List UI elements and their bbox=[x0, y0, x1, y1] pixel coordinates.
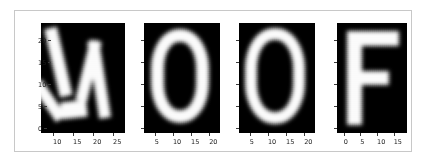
subplot-panel-f[interactable]: 051015 bbox=[337, 23, 407, 133]
tick-mark bbox=[236, 40, 239, 41]
subplot-panel-w[interactable]: 05101520 10152025 bbox=[41, 23, 125, 133]
tick-mark bbox=[191, 133, 192, 136]
letter-glyph-o-2 bbox=[239, 23, 315, 133]
tick-mark bbox=[44, 128, 47, 129]
subplot-panel-o-2[interactable]: 5101520 bbox=[239, 23, 315, 133]
tick-label: 20 bbox=[38, 37, 48, 45]
image-axes-w bbox=[41, 23, 125, 133]
tick-mark bbox=[93, 133, 94, 136]
tick-mark bbox=[141, 40, 144, 41]
tick-mark bbox=[286, 133, 287, 136]
image-axes-f bbox=[337, 23, 407, 133]
tick-label: 10 bbox=[38, 81, 48, 89]
letter-glyph-w bbox=[41, 23, 125, 133]
tick-mark bbox=[268, 133, 269, 136]
letter-glyph-o-1 bbox=[144, 23, 220, 133]
tick-mark bbox=[155, 133, 156, 136]
tick-mark bbox=[209, 133, 210, 136]
tick-mark bbox=[394, 133, 395, 136]
tick-mark bbox=[236, 84, 239, 85]
subplot-grid: 05101520 10152025 5101520 510152 bbox=[15, 11, 411, 151]
tick-mark bbox=[236, 62, 239, 63]
tick-mark bbox=[141, 62, 144, 63]
tick-mark bbox=[141, 106, 144, 107]
tick-mark bbox=[113, 133, 114, 136]
tick-mark bbox=[236, 106, 239, 107]
tick-mark bbox=[304, 133, 305, 136]
figure-canvas: 05101520 10152025 5101520 510152 bbox=[14, 10, 412, 152]
tick-mark bbox=[334, 62, 337, 63]
tick-mark bbox=[173, 133, 174, 136]
tick-mark bbox=[73, 133, 74, 136]
y-axis-o-2 bbox=[236, 23, 239, 133]
tick-mark bbox=[236, 128, 239, 129]
x-axis-w: 10152025 bbox=[41, 133, 125, 155]
tick-mark bbox=[141, 128, 144, 129]
y-axis-w: 05101520 bbox=[38, 23, 41, 133]
x-axis-f: 051015 bbox=[337, 133, 407, 155]
tick-mark bbox=[377, 133, 378, 136]
x-axis-o-2: 5101520 bbox=[239, 133, 315, 155]
tick-mark bbox=[334, 40, 337, 41]
letter-glyph-f bbox=[337, 23, 407, 133]
tick-mark bbox=[53, 133, 54, 136]
image-axes-o-2 bbox=[239, 23, 315, 133]
tick-mark bbox=[48, 84, 51, 85]
x-axis-o-1: 5101520 bbox=[144, 133, 220, 155]
subplot-panel-o-1[interactable]: 5101520 bbox=[144, 23, 220, 133]
tick-mark bbox=[250, 133, 251, 136]
image-axes-o-1 bbox=[144, 23, 220, 133]
tick-mark bbox=[141, 84, 144, 85]
tick-label: 15 bbox=[38, 59, 48, 67]
tick-mark bbox=[344, 133, 345, 136]
tick-mark bbox=[334, 84, 337, 85]
tick-mark bbox=[334, 128, 337, 129]
tick-mark bbox=[360, 133, 361, 136]
tick-mark bbox=[44, 106, 47, 107]
y-axis-f bbox=[334, 23, 337, 133]
tick-mark bbox=[48, 40, 51, 41]
tick-mark bbox=[334, 106, 337, 107]
tick-mark bbox=[48, 62, 51, 63]
y-axis-o-1 bbox=[141, 23, 144, 133]
